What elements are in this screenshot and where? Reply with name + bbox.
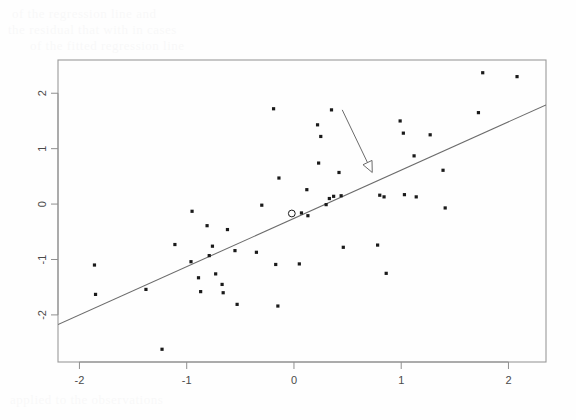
data-point — [233, 249, 236, 252]
annotation-arrow-group — [342, 110, 372, 173]
data-point — [441, 169, 444, 172]
data-point — [255, 251, 258, 254]
data-point — [385, 272, 388, 275]
data-point — [197, 276, 200, 279]
x-tick-label: 2 — [505, 374, 511, 386]
x-axis-tick-labels: -2-1012 — [75, 374, 512, 386]
data-point — [276, 304, 279, 307]
regression-line — [58, 105, 546, 325]
data-point — [272, 107, 275, 110]
data-point — [317, 161, 320, 164]
data-point — [214, 272, 217, 275]
data-point — [211, 245, 214, 248]
data-point — [382, 195, 385, 198]
data-point — [94, 293, 97, 296]
y-tick-label: -1 — [36, 255, 48, 265]
y-axis-tick-labels: 210-1-2 — [36, 90, 48, 320]
data-point — [399, 119, 402, 122]
data-point — [342, 246, 345, 249]
highlighted-point-group — [288, 210, 295, 217]
highlighted-data-point — [288, 210, 295, 217]
data-point — [190, 210, 193, 213]
data-point — [403, 193, 406, 196]
data-point — [305, 188, 308, 191]
scatter-plot-figure: of the regression line and the residual … — [0, 0, 576, 420]
pointer-arrow — [342, 110, 372, 173]
data-point — [402, 132, 405, 135]
data-point — [515, 75, 518, 78]
data-point — [378, 194, 381, 197]
data-point-group — [93, 71, 519, 351]
data-point — [274, 263, 277, 266]
y-tick-label: -2 — [36, 310, 48, 320]
x-tick-label: -1 — [182, 374, 192, 386]
y-axis-ticks — [51, 93, 58, 315]
data-point — [429, 133, 432, 136]
data-point — [222, 291, 225, 294]
data-point — [337, 171, 340, 174]
data-point — [298, 262, 301, 265]
data-point — [93, 263, 96, 266]
y-tick-label: 2 — [36, 90, 48, 96]
y-tick-label: 1 — [36, 146, 48, 152]
data-point — [328, 197, 331, 200]
data-point — [316, 123, 319, 126]
data-point — [277, 176, 280, 179]
data-point — [208, 254, 211, 257]
plot-canvas: 210-1-2 -2-1012 — [0, 0, 576, 420]
data-point — [260, 204, 263, 207]
x-tick-label: 0 — [291, 374, 297, 386]
data-point — [300, 211, 303, 214]
data-point — [173, 243, 176, 246]
data-point — [306, 214, 309, 217]
data-point — [444, 206, 447, 209]
data-point — [236, 303, 239, 306]
data-point — [481, 71, 484, 74]
data-point — [477, 111, 480, 114]
plot-frame — [58, 60, 546, 362]
data-point — [415, 195, 418, 198]
x-tick-label: 1 — [398, 374, 404, 386]
data-point — [226, 228, 229, 231]
y-tick-label: 0 — [36, 201, 48, 207]
data-point — [412, 154, 415, 157]
data-point — [325, 203, 328, 206]
data-point — [376, 243, 379, 246]
x-tick-label: -2 — [75, 374, 85, 386]
data-point — [332, 195, 335, 198]
data-point — [220, 283, 223, 286]
data-point — [160, 348, 163, 351]
data-point — [205, 224, 208, 227]
data-point — [330, 108, 333, 111]
data-point — [340, 194, 343, 197]
data-point — [199, 290, 202, 293]
data-point — [189, 260, 192, 263]
x-axis-ticks — [79, 362, 508, 369]
data-point — [144, 288, 147, 291]
data-point — [319, 135, 322, 138]
